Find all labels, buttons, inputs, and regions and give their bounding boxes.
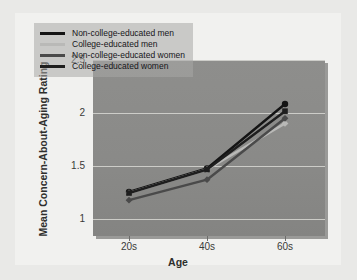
data-point bbox=[204, 167, 210, 173]
legend-swatch-icon bbox=[40, 43, 65, 46]
legend-label: College-educated women bbox=[72, 61, 168, 72]
legend-label: College-educated men bbox=[72, 39, 158, 50]
chart-legend: Non-college-educated men College-educate… bbox=[34, 23, 193, 77]
x-axis-title: Age bbox=[15, 256, 341, 268]
legend-item-non-college-educated-men: Non-college-educated men bbox=[40, 28, 185, 39]
legend-item-college-educated-women: College-educated women bbox=[40, 61, 185, 72]
legend-swatch-icon bbox=[40, 32, 65, 35]
legend-swatch-icon bbox=[40, 54, 65, 57]
legend-swatch-icon bbox=[40, 65, 65, 68]
y-axis-title: Mean Concern-About-Aging Rating bbox=[37, 59, 49, 239]
data-point bbox=[126, 190, 132, 196]
legend-label: Non-college-educated women bbox=[72, 50, 185, 61]
series-line bbox=[129, 118, 285, 200]
x-tick-label-20s: 20s bbox=[109, 241, 149, 252]
data-point bbox=[126, 197, 133, 204]
data-point bbox=[282, 101, 288, 107]
legend-item-college-educated-men: College-educated men bbox=[40, 39, 185, 50]
y-tick-label-1-0: 1 bbox=[59, 213, 85, 224]
plot-area bbox=[93, 60, 325, 236]
data-point bbox=[282, 108, 288, 114]
figure-panel: 2.5 2 1.5 1 20s 40s 60s Age Mean Concern… bbox=[15, 13, 341, 265]
y-tick-label-1-5: 1.5 bbox=[59, 160, 85, 171]
legend-item-non-college-educated-women: Non-college-educated women bbox=[40, 50, 185, 61]
x-tick-label-60s: 60s bbox=[265, 241, 305, 252]
y-tick-label-2-0: 2 bbox=[59, 107, 85, 118]
x-tick-label-40s: 40s bbox=[187, 241, 227, 252]
legend-label: Non-college-educated men bbox=[72, 28, 174, 39]
series-layer bbox=[93, 60, 325, 236]
